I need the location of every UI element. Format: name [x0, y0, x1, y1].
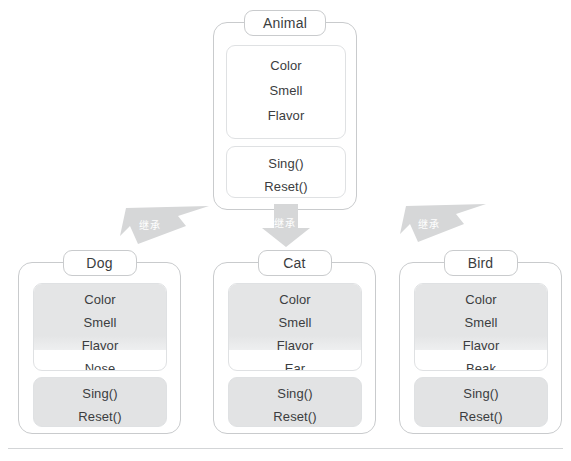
footer-divider [8, 448, 563, 449]
attribute-row: Flavor [415, 338, 547, 353]
attribute-row: Color [34, 292, 166, 307]
attribute-row: Color [415, 292, 547, 307]
attribute-row: Flavor [229, 338, 361, 353]
class-box-animal[interactable]: Animal Color Smell Flavor Sing() Reset() [213, 22, 357, 210]
method-row: Sing() [227, 156, 345, 171]
class-box-cat[interactable]: Cat Color Smell Flavor Ear Sing() Reset(… [213, 262, 376, 434]
methods-compartment-cat: Sing() Reset() [228, 377, 362, 427]
attributes-compartment-bird: Color Smell Flavor Beak [414, 283, 548, 371]
class-title-animal: Animal [244, 10, 326, 36]
inheritance-arrow-bird [398, 202, 490, 250]
attribute-row: Smell [415, 315, 547, 330]
attribute-row: Smell [34, 315, 166, 330]
methods-compartment-dog: Sing() Reset() [33, 377, 167, 427]
method-row: Reset() [229, 409, 361, 424]
methods-compartment-bird: Sing() Reset() [414, 377, 548, 427]
attributes-compartment-dog: Color Smell Flavor Nose [33, 283, 167, 371]
method-row: Reset() [415, 409, 547, 424]
attribute-row: Smell [229, 315, 361, 330]
attribute-row-own: Beak [415, 361, 547, 371]
attributes-compartment-animal: Color Smell Flavor [226, 45, 346, 139]
inheritance-arrow-cat [260, 204, 312, 248]
method-row: Sing() [229, 386, 361, 401]
attribute-row: Smell [227, 83, 345, 98]
class-title-dog: Dog [63, 250, 137, 276]
class-title-bird: Bird [444, 250, 518, 276]
attribute-row: Color [229, 292, 361, 307]
methods-compartment-animal: Sing() Reset() [226, 146, 346, 198]
attribute-row-own: Nose [34, 361, 166, 371]
method-row: Reset() [227, 179, 345, 194]
method-row: Sing() [34, 386, 166, 401]
attributes-compartment-cat: Color Smell Flavor Ear [228, 283, 362, 371]
inheritance-arrow-dog [118, 202, 216, 250]
method-row: Reset() [34, 409, 166, 424]
attribute-row-own: Ear [229, 361, 361, 371]
class-box-bird[interactable]: Bird Color Smell Flavor Beak Sing() Rese… [399, 262, 562, 434]
class-title-cat: Cat [258, 250, 332, 276]
attribute-row: Flavor [34, 338, 166, 353]
class-box-dog[interactable]: Dog Color Smell Flavor Nose Sing() Reset… [18, 262, 181, 434]
attribute-row: Color [227, 58, 345, 73]
attribute-row: Flavor [227, 108, 345, 123]
method-row: Sing() [415, 386, 547, 401]
diagram-canvas: Animal Color Smell Flavor Sing() Reset()… [0, 0, 571, 461]
